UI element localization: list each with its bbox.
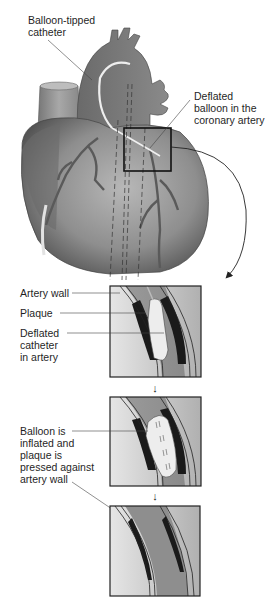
label-artery-wall: Artery wall [20, 287, 69, 299]
down-arrow-1: ↓ [152, 382, 158, 394]
label-deflated-balloon: Deflated balloon in the coronary artery [194, 90, 265, 126]
down-arrow-2: ↓ [152, 490, 158, 502]
label-balloon-inflated: Balloon is inflated and plaque is presse… [20, 425, 94, 485]
step3-artery-opened [110, 506, 200, 596]
label-deflated-catheter: Deflated catheter in artery [20, 327, 59, 363]
heart-illustration [21, 28, 246, 280]
step1-deflated-balloon [60, 286, 201, 377]
label-plaque: Plaque [20, 307, 53, 319]
label-catheter: Balloon-tipped catheter [28, 14, 95, 38]
